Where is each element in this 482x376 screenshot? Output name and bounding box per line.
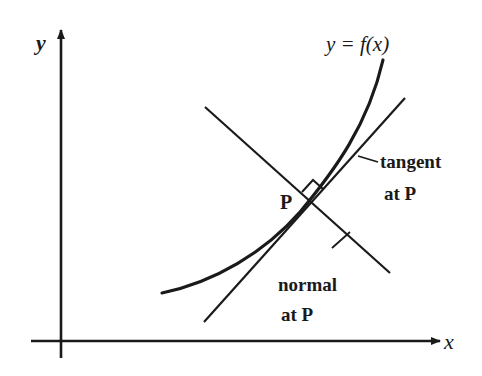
curve-label: y = f(x): [324, 32, 389, 56]
tangent-pointer: [358, 156, 378, 162]
right-angle-marker: [302, 180, 323, 192]
tangent-label-line1: tangent: [380, 151, 442, 172]
y-axis-label: y: [33, 30, 46, 55]
normal-label-line1: normal: [278, 274, 337, 295]
curve: [162, 60, 383, 293]
diagram-canvas: y x y = f(x) P tangent at P normal at P: [0, 0, 482, 376]
normal-label-line2: at P: [281, 304, 314, 325]
point-p-label: P: [280, 191, 292, 213]
normal-pointer: [332, 232, 350, 248]
x-axis-label: x: [443, 329, 454, 354]
tangent-label-line2: at P: [384, 183, 417, 204]
normal-line: [205, 107, 390, 273]
